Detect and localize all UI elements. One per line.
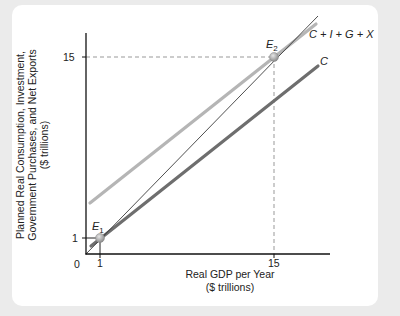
c-curve-label: C — [320, 55, 328, 67]
e1-label: E1 — [92, 220, 104, 235]
y-axis-label-line3: ($ trillions) — [38, 35, 50, 255]
x-axis-label-line1: Real GDP per Year — [130, 268, 330, 281]
e1-label-sub: 1 — [99, 226, 103, 235]
y-axis-label-line1: Planned Real Consumption, Investment, — [14, 35, 26, 255]
e2-label-sub: 2 — [273, 44, 277, 53]
forty-five-degree-line — [86, 16, 318, 254]
y-tick-label-15: 15 — [63, 51, 75, 63]
x-axis-label: Real GDP per Year ($ trillions) — [130, 268, 330, 294]
y-axis-label-line2: Government Purchases, and Net Exports — [26, 35, 38, 255]
cigx-curve-label: C + I + G + X — [309, 28, 374, 40]
cigx-line — [90, 24, 316, 203]
x-tick-label-1: 1 — [97, 257, 103, 269]
consumption-line — [91, 66, 318, 246]
x-tick-label-15: 15 — [268, 257, 280, 269]
y-tick-label-1: 1 — [72, 232, 78, 244]
y-axis-label: Planned Real Consumption, Investment, Go… — [14, 35, 50, 255]
e2-label: E2 — [266, 38, 278, 53]
e2-point — [270, 53, 279, 62]
x-axis-label-line2: ($ trillions) — [130, 281, 330, 294]
origin-label: 0 — [74, 258, 80, 270]
